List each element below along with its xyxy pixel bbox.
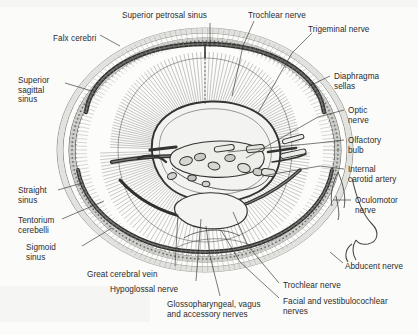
label-line: Sigmoid (26, 243, 56, 253)
label-line: Internal (348, 165, 396, 175)
label-line: sinus (26, 253, 56, 263)
label-glossopharyngeal-vagus-accessory-nerves: Glossopharyngeal, vagusand accessory ner… (167, 300, 261, 319)
leader-falx-cerebri (100, 35, 120, 46)
label-sigmoid-sinus: Sigmoidsinus (26, 243, 56, 262)
label-hypoglossal-nerve: Hypoglossal nerve (110, 285, 178, 295)
label-line: Facial and vestibulocochlear (283, 297, 388, 307)
label-line: Abducent nerve (345, 262, 403, 272)
label-line: Superior petrosal sinus (122, 11, 207, 21)
label-trochlear-nerve-top: Trochlear nerve (248, 11, 306, 21)
label-line: Tentorium (18, 216, 54, 226)
label-optic-nerve: Opticnerve (348, 106, 369, 125)
label-tentorium-cerebelli: Tentoriumcerebelli (18, 216, 54, 235)
label-facial-and-vestibulocochlear-nerves: Facial and vestibulocochlearnerves (283, 297, 388, 316)
label-diaphragma-sellas: Diaphragmasellas (334, 72, 379, 91)
label-line: cerebelli (18, 226, 54, 236)
label-oculomotor-nerve: Oculomotornerve (355, 196, 398, 215)
label-trochlear-nerve-bottom: Trochlear nerve (283, 281, 341, 291)
label-great-cerebral-vein: Great cerebral vein (87, 270, 158, 280)
label-line: Diaphragma (334, 72, 379, 82)
leader-abducent-nerve (330, 252, 343, 263)
label-line: sinus (18, 95, 49, 105)
label-internal-carotid-artery: Internalcarotid artery (348, 165, 396, 184)
label-line: and accessory nerves (167, 310, 261, 320)
label-abducent-nerve: Abducent nerve (345, 262, 403, 272)
figure-page: Superior petrosal sinusTrochlear nerveTr… (0, 0, 418, 335)
label-superior-petrosal-sinus: Superior petrosal sinus (122, 11, 207, 21)
label-line: Superior (18, 76, 49, 86)
label-line: sinus (18, 196, 47, 206)
label-line: Straight (18, 186, 47, 196)
label-line: nerves (283, 307, 388, 317)
label-line: Optic (348, 106, 369, 116)
label-trigeminal-nerve: Trigeminal nerve (308, 25, 369, 35)
label-line: Olfactory (348, 136, 381, 146)
label-line: Falx cerebri (53, 34, 96, 44)
label-straight-sinus: Straightsinus (18, 186, 47, 205)
label-line: sellas (334, 82, 379, 92)
label-line: Trigeminal nerve (308, 25, 369, 35)
label-line: Oculomotor (355, 196, 398, 206)
label-line: Hypoglossal nerve (110, 285, 178, 295)
label-line: Glossopharyngeal, vagus (167, 300, 261, 310)
face-profile-outline (346, 178, 377, 262)
label-line: Trochlear nerve (248, 11, 306, 21)
label-falx-cerebri: Falx cerebri (53, 34, 96, 44)
label-line: carotid artery (348, 175, 396, 185)
label-line: sagittal (18, 86, 49, 96)
label-line: bulb (348, 146, 381, 156)
label-line: nerve (355, 206, 398, 216)
label-line: Great cerebral vein (87, 270, 158, 280)
label-superior-sagittal-sinus: Superiorsagittalsinus (18, 76, 49, 105)
label-olfactory-bulb: Olfactorybulb (348, 136, 381, 155)
label-line: nerve (348, 116, 369, 126)
label-line: Trochlear nerve (283, 281, 341, 291)
